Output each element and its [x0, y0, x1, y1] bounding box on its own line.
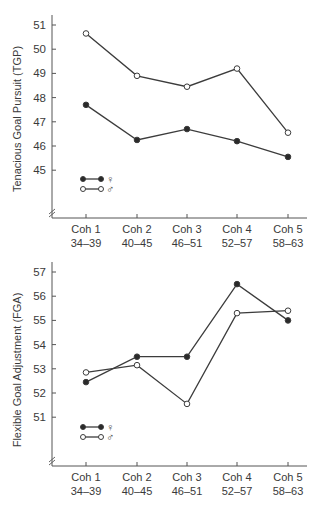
legend-male-marker — [99, 435, 104, 440]
legend-male-symbol: ♂ — [106, 183, 114, 195]
y-tick-label: 47 — [33, 116, 46, 128]
y-axis-title: Flexible Goal Adjustment (FGA) — [11, 293, 23, 448]
y-tick-label: 49 — [33, 67, 46, 79]
legend-female-marker — [81, 425, 86, 430]
y-tick-label: 56 — [33, 290, 46, 302]
x-age-range-label: 40–45 — [122, 485, 153, 497]
male-data-point — [184, 84, 190, 90]
x-category-label: Coh 2 — [122, 471, 151, 483]
x-age-range-label: 46–51 — [172, 485, 203, 497]
x-category-label: Coh 5 — [273, 471, 302, 483]
female-data-point — [234, 281, 240, 287]
male-data-point — [285, 130, 291, 136]
y-tick-label: 51 — [33, 19, 46, 31]
x-category-label: Coh 3 — [172, 223, 201, 235]
legend-male-marker — [81, 435, 86, 440]
x-age-range-label: 58–63 — [273, 237, 304, 249]
female-data-point — [134, 137, 140, 143]
male-data-point — [285, 308, 291, 314]
x-age-range-label: 52–57 — [222, 237, 253, 249]
y-tick-label: 46 — [33, 140, 46, 152]
female-data-point — [134, 354, 140, 360]
x-category-label: Coh 1 — [71, 223, 100, 235]
male-data-point — [83, 31, 89, 37]
x-age-range-label: 34–39 — [71, 237, 102, 249]
y-tick-label: 57 — [33, 266, 46, 278]
female-data-point — [83, 102, 89, 108]
female-data-point — [184, 354, 190, 360]
y-tick-label: 55 — [33, 314, 46, 326]
x-age-range-label: 46–51 — [172, 237, 203, 249]
x-age-range-label: 34–39 — [71, 485, 102, 497]
male-data-point — [234, 66, 240, 72]
x-category-label: Coh 4 — [222, 471, 251, 483]
male-data-point — [184, 401, 190, 407]
tgp-chart-panel: 45464748495051Coh 134–39Coh 240–45Coh 34… — [11, 15, 307, 249]
female-data-point — [184, 126, 190, 132]
x-age-range-label: 58–63 — [273, 485, 304, 497]
y-tick-label: 45 — [33, 164, 46, 176]
y-tick-label: 52 — [33, 387, 46, 399]
x-category-label: Coh 3 — [172, 471, 201, 483]
female-data-point — [234, 138, 240, 144]
x-age-range-label: 40–45 — [122, 237, 153, 249]
y-axis-title: Tenacious Goal Pursuit (TGP) — [11, 46, 23, 192]
legend-female-marker — [81, 177, 86, 182]
x-age-range-label: 52–57 — [222, 485, 253, 497]
male-data-point — [83, 370, 89, 376]
y-tick-label: 53 — [33, 363, 46, 375]
x-category-label: Coh 1 — [71, 471, 100, 483]
male-data-point — [234, 310, 240, 316]
x-category-label: Coh 2 — [122, 223, 151, 235]
y-tick-label: 54 — [33, 339, 46, 351]
x-category-label: Coh 5 — [273, 223, 302, 235]
legend-female-marker — [99, 177, 104, 182]
legend-male-marker — [81, 187, 86, 192]
y-tick-label: 51 — [33, 411, 46, 423]
legend-male-marker — [99, 187, 104, 192]
male-series-line — [86, 33, 288, 132]
chart-figure: 45464748495051Coh 134–39Coh 240–45Coh 34… — [0, 0, 319, 507]
legend-female-marker — [99, 425, 104, 430]
male-data-point — [134, 362, 140, 368]
female-data-point — [285, 318, 291, 324]
y-tick-label: 48 — [33, 92, 46, 104]
y-tick-label: 50 — [33, 43, 46, 55]
male-data-point — [134, 73, 140, 79]
x-category-label: Coh 4 — [222, 223, 251, 235]
female-series-line — [86, 284, 288, 382]
female-data-point — [83, 379, 89, 385]
female-data-point — [285, 154, 291, 160]
legend-male-symbol: ♂ — [106, 431, 114, 443]
fga-chart-panel: 51525354555657Coh 134–39Coh 240–45Coh 34… — [11, 262, 307, 497]
